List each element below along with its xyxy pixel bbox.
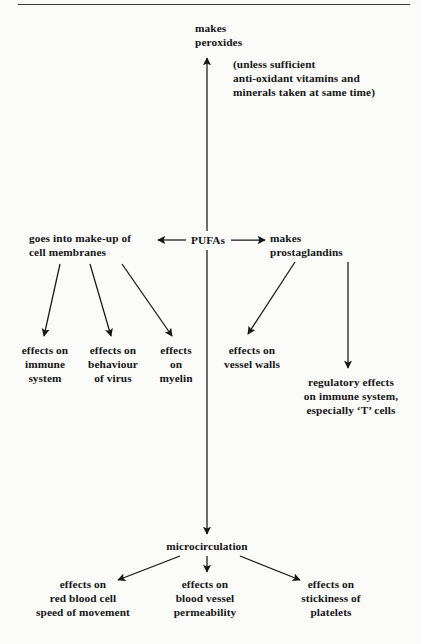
top-rule-divider xyxy=(18,4,410,5)
node-effects-blood-vessel-permeability: effects on blood vessel permeability xyxy=(148,577,262,620)
node-effects-red-blood-cell: effects on red blood cell speed of movem… xyxy=(18,577,148,620)
edge-membranes-myelin xyxy=(122,264,172,336)
edge-membranes-behaviour xyxy=(90,264,111,336)
node-effects-immune-system: effects on immune system xyxy=(12,343,78,386)
diagram-page: makes peroxides (unless sufficient anti-… xyxy=(0,0,421,644)
node-pufas: PUFAs xyxy=(183,233,233,247)
node-makes-peroxides: makes peroxides xyxy=(195,21,242,49)
node-effects-behaviour-of-virus: effects on behaviour of virus xyxy=(78,343,148,386)
edge-prostaglandins-vessel xyxy=(248,262,295,334)
node-effects-on-myelin: effects on myelin xyxy=(148,343,204,386)
node-effects-vessel-walls: effects on vessel walls xyxy=(215,343,289,371)
node-effects-stickiness-platelets: effects on stickiness of platelets xyxy=(270,577,392,620)
node-antioxidant-caveat: (unless sufficient anti-oxidant vitamins… xyxy=(233,57,375,100)
node-microcirculation: microcirculation xyxy=(157,539,257,553)
node-makes-prostaglandins: makes prostaglandins xyxy=(270,231,343,259)
node-regulatory-effects: regulatory effects on immune system, esp… xyxy=(287,375,415,418)
edge-membranes-immune xyxy=(44,264,60,336)
node-cell-membranes: goes into make-up of cell membranes xyxy=(29,231,131,259)
